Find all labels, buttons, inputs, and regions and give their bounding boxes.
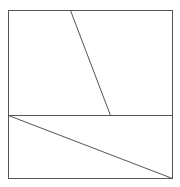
segments-group <box>9 11 173 179</box>
geometry-diagram <box>0 0 180 187</box>
upper-slant-line <box>71 11 111 116</box>
lower-diagonal-line <box>9 116 173 179</box>
outer-rectangle <box>9 11 173 179</box>
